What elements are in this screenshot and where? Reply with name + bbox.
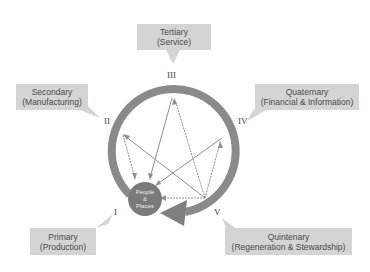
arrowhead-icon bbox=[132, 173, 137, 180]
tertiary-subtitle: (Service) bbox=[157, 37, 191, 47]
arrow-iii-to-center bbox=[150, 98, 172, 178]
tertiary-label-box: Tertiary (Service) bbox=[137, 24, 211, 50]
secondary-title: Secondary bbox=[32, 87, 73, 97]
tertiary-callout-tail bbox=[166, 50, 180, 64]
arrowhead-icon bbox=[148, 173, 153, 180]
quaternary-title: Quaternary bbox=[286, 87, 329, 97]
center-line-2: & bbox=[128, 196, 162, 203]
arrow-v-to-iii bbox=[175, 100, 205, 198]
secondary-label-box: Secondary (Manufacturing) bbox=[16, 84, 88, 110]
tertiary-title: Tertiary bbox=[160, 27, 188, 37]
numeral-v: V bbox=[214, 207, 221, 217]
primary-title: Primary bbox=[48, 232, 77, 242]
center-line-3: Places bbox=[128, 203, 162, 210]
arrowhead-icon bbox=[218, 141, 223, 148]
arrow-ii-to-center bbox=[123, 135, 135, 178]
numeral-iii: III bbox=[167, 70, 176, 80]
center-line-1: People bbox=[128, 189, 162, 196]
quintenary-title: Quintenary bbox=[268, 232, 310, 242]
quaternary-label-box: Quaternary (Financial & Information) bbox=[255, 84, 359, 110]
quintenary-label-box: Quintenary (Regeneration & Stewardship) bbox=[225, 228, 352, 255]
numeral-ii: II bbox=[104, 116, 110, 126]
quaternary-subtitle: (Financial & Information) bbox=[261, 97, 354, 107]
arrowhead-icon bbox=[155, 180, 161, 186]
numeral-i: I bbox=[114, 207, 117, 217]
cycle-arrowhead-icon bbox=[160, 200, 187, 226]
secondary-subtitle: (Manufacturing) bbox=[22, 97, 82, 107]
center-node-label: People & Places bbox=[128, 189, 162, 210]
quintenary-subtitle: (Regeneration & Stewardship) bbox=[232, 242, 346, 252]
numeral-iv: IV bbox=[238, 116, 248, 126]
primary-subtitle: (Production) bbox=[40, 242, 86, 252]
primary-label-box: Primary (Production) bbox=[30, 228, 96, 255]
arrowhead-icon bbox=[172, 98, 177, 105]
primary-callout-tail bbox=[96, 214, 113, 228]
